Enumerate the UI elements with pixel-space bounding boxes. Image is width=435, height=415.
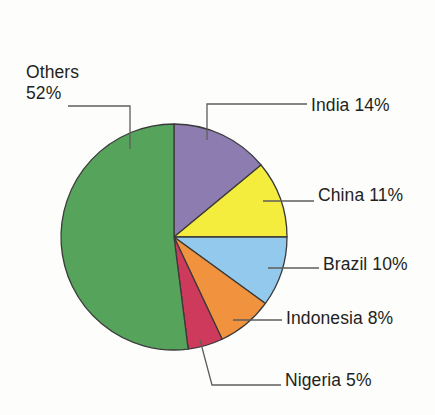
slice-label-others: Others 52% <box>26 62 79 105</box>
slice-label-nigeria: Nigeria 5% <box>285 370 372 391</box>
slice-label-china: China 11% <box>318 185 403 206</box>
pie-slice-others[interactable] <box>61 124 188 350</box>
pie-slices <box>61 124 287 350</box>
slice-label-brazil: Brazil 10% <box>323 254 408 275</box>
slice-label-indonesia: Indonesia 8% <box>286 308 393 329</box>
slice-label-india: India 14% <box>311 95 390 116</box>
leader-line-nigeria <box>200 340 281 385</box>
pie-chart-figure: Others 52% India 14% China 11% Brazil 10… <box>0 0 435 415</box>
slice-label-others-value: 52% <box>26 83 79 104</box>
slice-label-others-name: Others <box>26 62 79 82</box>
